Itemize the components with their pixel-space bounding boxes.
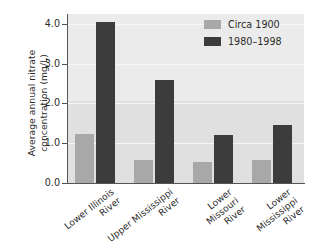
y-axis-tick-label: 4.0 xyxy=(34,19,60,29)
bar xyxy=(193,162,212,183)
y-axis-title: Average annual nitrate concentration (mg… xyxy=(0,0,30,200)
nitrate-concentration-bar-chart: Average annual nitrate concentration (mg… xyxy=(0,0,314,249)
bar xyxy=(273,125,292,183)
x-axis-line xyxy=(67,183,305,184)
bar xyxy=(214,135,233,184)
legend-swatch-dark xyxy=(204,37,221,46)
bar xyxy=(134,160,153,183)
y-axis-tick-labels: 0.01.02.03.04.0 xyxy=(34,0,60,200)
y-axis-tick-mark xyxy=(62,103,67,104)
legend: Circa 19001980–1998 xyxy=(204,17,304,51)
y-axis-tick-label: 2.0 xyxy=(34,98,60,108)
y-axis-tick-label: 3.0 xyxy=(34,59,60,69)
y-axis-tick-mark xyxy=(62,143,67,144)
bar xyxy=(155,80,174,183)
bar xyxy=(252,160,271,183)
bar xyxy=(75,134,94,183)
legend-label: 1980–1998 xyxy=(228,36,282,47)
y-axis-tick-label: 0.0 xyxy=(34,178,60,188)
y-axis-tick-mark xyxy=(62,64,67,65)
bar xyxy=(96,22,115,183)
legend-item: 1980–1998 xyxy=(204,34,304,49)
y-axis-tick-mark xyxy=(62,24,67,25)
legend-item: Circa 1900 xyxy=(204,17,304,32)
legend-swatch-light xyxy=(204,20,221,29)
y-axis-tick-mark xyxy=(62,183,67,184)
y-axis-tick-label: 1.0 xyxy=(34,138,60,148)
legend-label: Circa 1900 xyxy=(228,19,280,30)
